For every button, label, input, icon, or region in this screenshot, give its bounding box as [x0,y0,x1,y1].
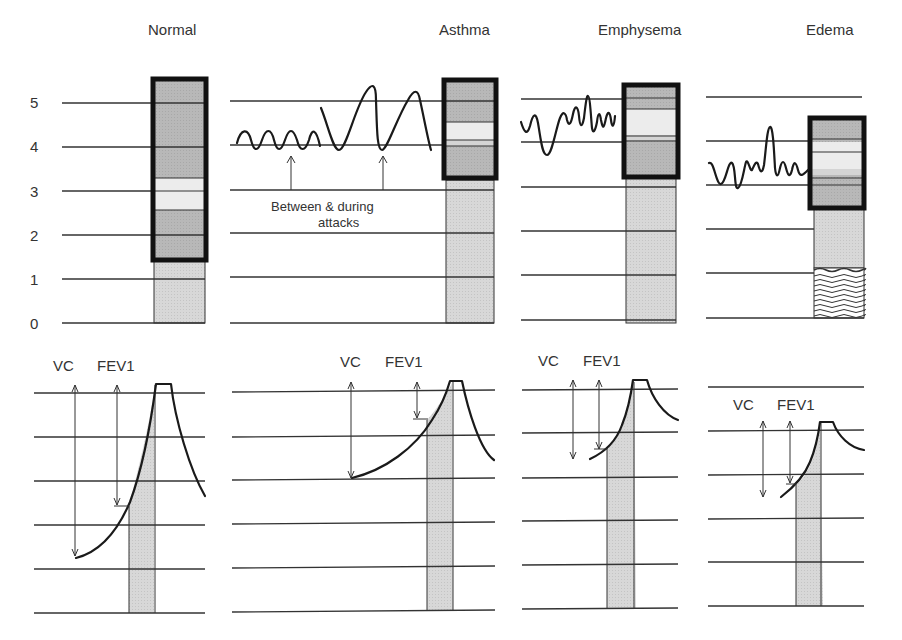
fev1-label: FEV1 [97,357,135,374]
fev1-fill [607,382,636,609]
y-tick-0: 0 [30,315,38,332]
residual-volume-bar [814,208,864,268]
expiration-curve [781,422,864,497]
fev1-label: FEV1 [583,352,621,369]
fev1-label: FEV1 [777,396,815,413]
tidal-segment [154,178,205,210]
asthma-volume-panel: Between & during attacks [230,80,496,323]
y-axis: 5 4 3 2 1 0 [30,94,38,332]
breathing-trace [521,96,615,155]
y-tick-2: 2 [30,227,38,244]
edema-volume-panel [706,97,866,318]
residual-volume-bar [446,180,494,323]
fev1-label: FEV1 [385,353,423,370]
emphysema-spirometry-panel: VC FEV1 [522,352,678,609]
emphysema-volume-panel [521,85,678,323]
y-tick-1: 1 [30,271,38,288]
residual-volume-bar [626,178,676,323]
breathing-trace [709,127,808,188]
vc-label: VC [538,352,559,369]
edema-spirometry-panel: VC FEV1 [708,387,864,606]
panel-title-edema: Edema [806,21,854,38]
panel-title-normal: Normal [148,21,196,38]
attack-breathing-trace [321,86,431,150]
residual-volume-bar [154,260,205,323]
panel-title-emphysema: Emphysema [598,21,682,38]
expiration-curve [352,381,494,478]
asthma-spirometry-panel: VC FEV1 [232,353,495,612]
irv-segment [154,80,205,178]
y-tick-5: 5 [30,94,38,111]
y-tick-4: 4 [30,138,38,155]
vc-label: VC [53,357,74,374]
fev1-fill [427,383,453,610]
normal-volume-panel [62,79,206,323]
vc-label: VC [733,396,754,413]
annotation-line1: Between & during [271,199,374,214]
vc-label: VC [340,353,361,370]
normal-spirometry-panel: VC FEV1 [34,357,205,613]
annotation-line2: attacks [318,215,360,230]
y-tick-3: 3 [30,183,38,200]
normal-breathing-trace [237,131,320,149]
lung-volume-diagram: Normal Asthma Emphysema Edema 5 4 3 2 1 … [0,0,902,640]
panel-title-asthma: Asthma [439,21,491,38]
